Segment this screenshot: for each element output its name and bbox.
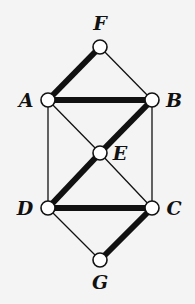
edge-E-D-thick xyxy=(48,153,100,208)
node-B xyxy=(145,93,159,107)
edge-A-E-thin xyxy=(48,100,100,153)
node-label-A: A xyxy=(17,89,34,111)
edge-C-G-thick xyxy=(100,208,152,260)
node-label-D: D xyxy=(16,197,34,219)
node-E xyxy=(93,146,107,160)
node-label-B: B xyxy=(165,89,182,111)
edge-F-A-thick xyxy=(48,47,100,100)
node-A xyxy=(41,93,55,107)
nodes-layer xyxy=(41,40,159,267)
edge-D-G-thin xyxy=(48,208,100,260)
node-D xyxy=(41,201,55,215)
node-label-C: C xyxy=(166,197,181,219)
node-label-E: E xyxy=(112,142,128,164)
graph-diagram: FABEDCG xyxy=(0,0,195,304)
node-C xyxy=(145,201,159,215)
edge-F-B-thin xyxy=(100,47,152,100)
node-F xyxy=(93,40,107,54)
node-label-F: F xyxy=(92,12,108,34)
node-G xyxy=(93,253,107,267)
node-label-G: G xyxy=(92,271,108,293)
